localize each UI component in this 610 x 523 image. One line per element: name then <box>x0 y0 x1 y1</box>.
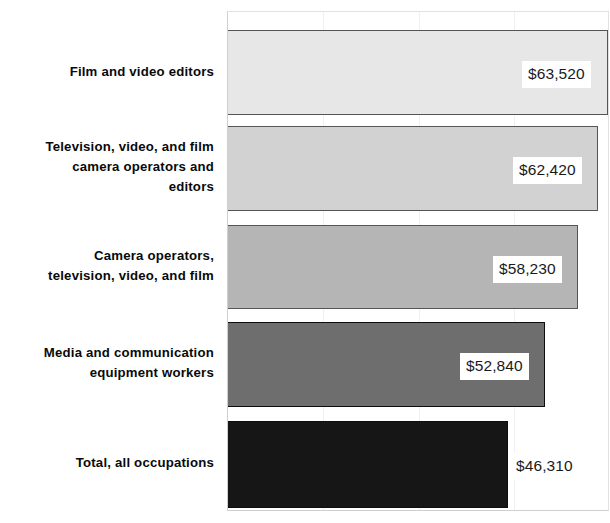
plot-area: $63,520 $62,420 $58,230 $52,840 $46,310 <box>227 11 609 511</box>
value-label-media-and-communication-equipment-workers: $52,840 <box>460 353 529 380</box>
category-label-column: Film and video editors Television, video… <box>0 0 222 523</box>
category-label-television-video-and-film-camera-operators-and-editors: Television, video, and film camera opera… <box>45 137 214 197</box>
category-label-media-and-communication-equipment-workers: Media and communication equipment worker… <box>44 343 214 383</box>
value-label-camera-operators-television-video-and-film: $58,230 <box>493 256 562 283</box>
value-label-total-all-occupations: $46,310 <box>510 453 579 480</box>
category-label-film-and-video-editors: Film and video editors <box>70 62 214 82</box>
value-label-film-and-video-editors: $63,520 <box>522 61 591 88</box>
bar-total-all-occupations <box>228 421 508 508</box>
value-label-television-video-and-film-camera-operators-and-editors: $62,420 <box>513 157 582 184</box>
bar-chart-page: Film and video editors Television, video… <box>0 0 610 523</box>
category-label-camera-operators-television-video-and-film: Camera operators, television, video, and… <box>48 246 214 286</box>
category-label-total-all-occupations: Total, all occupations <box>76 453 214 473</box>
